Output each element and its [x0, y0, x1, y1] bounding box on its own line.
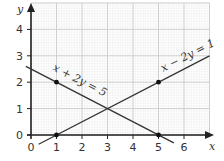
y-tick-label: 1 — [16, 103, 23, 116]
y-tick-label: 0 — [16, 129, 23, 142]
linear-equations-graph: 012345601234 y x x + 2y = 5 x − 2y = 1 — [0, 0, 224, 161]
data-point — [54, 133, 59, 138]
x-tick-label: 5 — [155, 141, 162, 154]
data-point — [156, 133, 161, 138]
y-tick-label: 4 — [16, 23, 23, 36]
x-tick-label: 1 — [53, 141, 60, 154]
x-tick-label: 0 — [28, 141, 35, 154]
x-axis-label: x — [209, 140, 216, 153]
x-tick-label: 6 — [181, 141, 188, 154]
y-tick-label: 2 — [16, 76, 23, 89]
y-tick-label: 3 — [16, 50, 23, 63]
x-tick-label: 3 — [104, 141, 111, 154]
data-point — [156, 80, 161, 85]
y-axis-label: y — [16, 3, 24, 16]
data-point — [54, 80, 59, 85]
x-tick-label: 4 — [130, 141, 137, 154]
x-tick-label: 2 — [79, 141, 86, 154]
